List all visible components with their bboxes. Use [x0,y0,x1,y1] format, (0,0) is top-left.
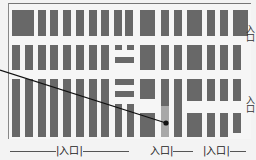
entrance-label-right-1: 入口 [245,24,254,42]
entrance-label-bottom-2: 入口| [150,146,193,156]
location-marker-icon [163,120,168,125]
parking-map: |入口| 入口| |入口| 入口 入口 [0,0,256,160]
entrance-label-bottom-1: |入口| [10,146,129,156]
pointer-line [0,0,256,160]
entrance-label-bottom-3: |入口| [203,146,246,156]
entrance-label-right-2: 入口 [245,95,254,113]
